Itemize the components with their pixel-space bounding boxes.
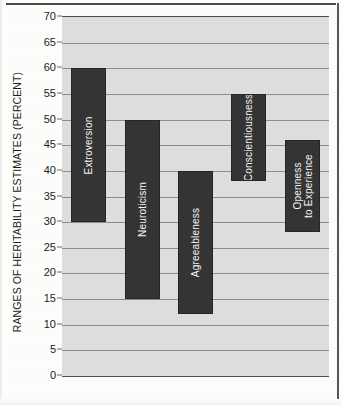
plot-area: ExtroversionNeuroticismAgreeablenessCons… [62,16,329,377]
bar-conscientiousness: Conscientiousness [231,94,266,181]
page-edge-left [0,0,3,405]
bar-label: Conscientiousness [243,94,254,181]
y-tick-label: 60 [44,61,56,73]
y-tick-label: 40 [44,164,56,176]
bar-label: Agreeableness [190,208,201,277]
gridline [62,43,329,44]
y-tick-label: 35 [44,190,56,202]
y-tick-label: 45 [44,138,56,150]
page-border-top [6,3,336,5]
gridline [62,325,329,326]
bar-label: Openness to Experience [292,154,314,218]
bar-label: Neuroticism [137,182,148,237]
y-axis-title-text: RANGES OF HERITABILITY ESTIMATES (PERCEN… [11,72,23,332]
y-tick-label: 70 [44,10,56,22]
y-tick-label: 50 [44,113,56,125]
bar-agreeableness: Agreeableness [178,171,213,315]
y-tick-label: 55 [44,87,56,99]
y-axis-tick-labels: 7065605550454035302520151050 [26,16,56,375]
gridline [62,350,329,351]
bar-openness-to-experience: Openness to Experience [285,140,320,232]
y-tick-label: 10 [44,318,56,330]
figure-page: RANGES OF HERITABILITY ESTIMATES (PERCEN… [0,0,342,405]
page-border-right [337,3,339,402]
page-edge-bottom [0,399,342,405]
y-tick-label: 20 [44,266,56,278]
y-tick-label: 65 [44,36,56,48]
y-tick-label: 30 [44,215,56,227]
y-tick-label: 25 [44,241,56,253]
bar-label: Extroversion [83,116,94,174]
bar-neuroticism: Neuroticism [125,120,160,300]
bar-extroversion: Extroversion [71,68,106,222]
y-tick-label: 5 [50,343,56,355]
y-tick-label: 0 [50,369,56,381]
y-axis-title: RANGES OF HERITABILITY ESTIMATES (PERCEN… [8,52,26,352]
y-tick-label: 15 [44,292,56,304]
